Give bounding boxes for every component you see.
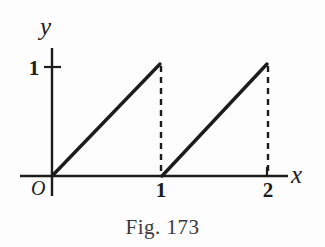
- sawtooth-ramp-2: [162, 64, 267, 176]
- x-axis-label: x: [291, 162, 302, 187]
- x-tick-label-1: 1: [151, 180, 171, 201]
- figure-container: y x O 1 1 2 Fig. 173: [0, 0, 325, 247]
- figure-caption: Fig. 173: [0, 215, 325, 240]
- origin-label: O: [31, 178, 45, 198]
- x-tick-label-2: 2: [258, 180, 278, 201]
- sawtooth-ramp-1: [52, 64, 160, 176]
- y-tick-label-1: 1: [24, 58, 44, 79]
- y-axis-label: y: [40, 14, 51, 39]
